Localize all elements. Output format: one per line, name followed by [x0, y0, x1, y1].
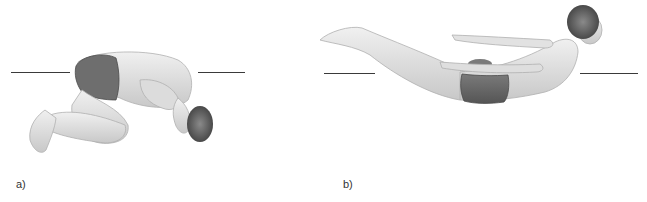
- panel-b: b): [300, 0, 647, 202]
- panel-a: a): [0, 0, 300, 202]
- panel-b-label: b): [343, 178, 353, 190]
- tuck-position-figure: [0, 0, 300, 202]
- superman-position-figure: [300, 0, 647, 202]
- panel-a-label: a): [16, 178, 26, 190]
